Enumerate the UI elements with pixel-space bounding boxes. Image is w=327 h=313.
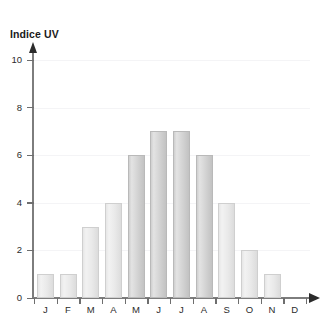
y-axis-tick-label-text: 2 <box>0 244 22 255</box>
y-axis-tick <box>27 298 34 299</box>
y-axis-tick-label-text: 0 <box>0 292 22 303</box>
bar-j-6 <box>173 131 190 298</box>
bar-m-4 <box>128 155 145 298</box>
x-axis-label-0: J <box>35 304 55 313</box>
bar-j-5 <box>150 131 167 298</box>
y-axis-tick-label-text: 6 <box>0 149 22 160</box>
y-axis-title: Indice UV <box>10 28 59 40</box>
y-axis-tick-label: 10 <box>0 54 24 64</box>
bar-a-7 <box>196 155 213 298</box>
y-axis-tick <box>27 250 34 251</box>
y-axis-tick-label: 6 <box>0 149 24 159</box>
x-axis-label-8: S <box>217 304 237 313</box>
y-axis-tick-label: 8 <box>0 102 24 112</box>
y-axis-tick-label-text: 4 <box>0 197 22 208</box>
y-axis-line <box>32 52 34 299</box>
y-axis-tick <box>27 155 34 156</box>
bar-f-1 <box>60 274 77 298</box>
uv-index-bar-chart: Indice UV 0246810 JFMAMJJASOND <box>0 0 327 313</box>
x-axis-label-10: N <box>262 304 282 313</box>
x-axis-arrow-icon <box>309 293 320 303</box>
x-axis-label-4: M <box>126 304 146 313</box>
x-axis-label-1: F <box>58 304 78 313</box>
x-axis-label-9: O <box>239 304 259 313</box>
y-axis-tick-label-text: 8 <box>0 102 22 113</box>
x-axis-label-7: A <box>194 304 214 313</box>
x-axis-label-2: M <box>81 304 101 313</box>
bar-m-2 <box>82 227 99 298</box>
x-axis-label-3: A <box>103 304 123 313</box>
gridline <box>34 108 310 109</box>
y-axis-tick <box>27 107 34 108</box>
bar-o-9 <box>241 250 258 298</box>
y-axis-tick <box>27 60 34 61</box>
bar-j-0 <box>37 274 54 298</box>
x-axis-label-5: J <box>149 304 169 313</box>
x-axis-tick <box>306 298 307 304</box>
gridline <box>34 60 310 61</box>
y-axis-tick-label-text: 10 <box>0 54 22 65</box>
x-axis-label-6: J <box>171 304 191 313</box>
y-axis-arrow-icon <box>29 42 37 53</box>
bar-n-10 <box>264 274 281 298</box>
y-axis-tick-label: 4 <box>0 197 24 207</box>
bar-a-3 <box>105 203 122 298</box>
y-axis-tick <box>27 202 34 203</box>
bar-s-8 <box>218 203 235 298</box>
x-axis-label-11: D <box>285 304 305 313</box>
y-axis-tick-label: 0 <box>0 292 24 302</box>
y-axis-tick-label: 2 <box>0 244 24 254</box>
